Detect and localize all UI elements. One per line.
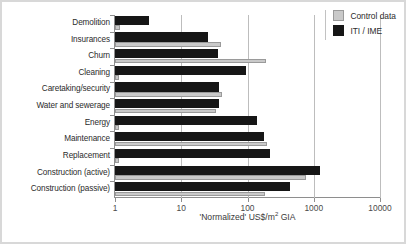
bar-control-data	[115, 158, 119, 163]
bar-iti-ime	[115, 99, 219, 108]
iti-ime-swatch-icon	[333, 25, 344, 36]
bar-iti-ime	[115, 16, 149, 25]
y-tick-label: Water and sewerage	[37, 101, 110, 110]
y-tick-label: Construction (active)	[37, 168, 110, 177]
chart-legend: Control data ITI / IME	[325, 10, 396, 40]
bar-row	[115, 148, 380, 165]
x-tick	[248, 198, 249, 202]
x-tick	[380, 198, 381, 202]
y-tick-label: Insurances	[71, 35, 110, 44]
bar-control-data	[115, 92, 222, 97]
chart-figure: DemolitionInsurancesChurnCleaningCaretak…	[0, 0, 406, 244]
bar-iti-ime	[115, 132, 264, 141]
y-tick-label: Energy	[85, 118, 110, 127]
y-tick-label: Demolition	[72, 18, 110, 27]
bar-iti-ime	[115, 116, 257, 125]
y-axis-labels: DemolitionInsurancesChurnCleaningCaretak…	[2, 15, 110, 198]
bar-iti-ime	[115, 166, 320, 175]
bar-row	[115, 165, 380, 182]
bar-control-data	[115, 125, 119, 130]
x-axis-title: 'Normalized' US$/m2 GIA	[115, 211, 380, 222]
control-data-swatch-icon	[333, 10, 344, 21]
x-tick	[115, 198, 116, 202]
bar-iti-ime	[115, 182, 290, 191]
bar-control-data	[115, 142, 267, 147]
bar-row	[115, 82, 380, 99]
bar-control-data	[115, 109, 216, 114]
bar-control-data	[115, 175, 306, 180]
bar-iti-ime	[115, 82, 219, 91]
bar-control-data	[115, 75, 119, 80]
legend-item-iti: ITI / IME	[333, 25, 396, 36]
x-tick	[181, 198, 182, 202]
gridline	[380, 15, 381, 198]
y-tick-label: Caretaking/security	[42, 84, 110, 93]
legend-item-control: Control data	[333, 10, 396, 21]
bar-control-data	[115, 192, 265, 197]
y-tick-label: Replacement	[63, 151, 110, 160]
bar-iti-ime	[115, 49, 218, 58]
bar-iti-ime	[115, 32, 208, 41]
bar-control-data	[115, 42, 221, 47]
bar-row	[115, 181, 380, 198]
bar-iti-ime	[115, 66, 246, 75]
legend-label-iti: ITI / IME	[350, 26, 382, 36]
bar-control-data	[115, 25, 120, 30]
y-tick-label: Construction (passive)	[31, 184, 110, 193]
plot-area	[115, 15, 380, 198]
y-tick-label: Maintenance	[64, 134, 110, 143]
bar-iti-ime	[115, 149, 270, 158]
bar-row	[115, 65, 380, 82]
bar-control-data	[115, 59, 266, 64]
bar-row	[115, 98, 380, 115]
y-tick-label: Cleaning	[78, 68, 110, 77]
bar-row	[115, 115, 380, 132]
bar-row	[115, 131, 380, 148]
bar-row	[115, 48, 380, 65]
x-tick	[314, 198, 315, 202]
y-tick-label: Churn	[88, 51, 110, 60]
legend-label-control: Control data	[350, 11, 396, 21]
